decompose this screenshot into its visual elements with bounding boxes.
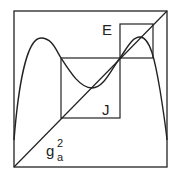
label-E: E [102, 22, 112, 37]
label-g-sub: a [57, 152, 63, 163]
label-g: g [46, 143, 54, 158]
box-E [120, 24, 153, 58]
cobweb-diagram [0, 0, 178, 177]
label-g-sup: 2 [57, 138, 63, 149]
label-J: J [102, 102, 110, 117]
map-curve [14, 37, 167, 140]
diagonal-line [14, 11, 167, 167]
